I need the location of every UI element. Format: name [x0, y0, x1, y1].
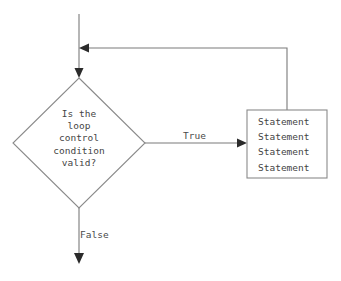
entry-arrowhead-icon — [75, 68, 84, 78]
feedback-connector-line — [88, 48, 287, 110]
true-arrowhead-icon — [237, 139, 247, 148]
feedback-arrowhead-icon — [79, 44, 89, 53]
statement-label: Statement Statement Statement Statement — [258, 114, 309, 175]
false-branch-label: False — [80, 229, 109, 240]
flowchart-canvas: Is the loop control condition valid? Sta… — [0, 0, 341, 281]
decision-label: Is the loop control condition valid? — [13, 108, 145, 169]
false-arrowhead-icon — [74, 253, 84, 264]
true-branch-label: True — [183, 130, 206, 141]
